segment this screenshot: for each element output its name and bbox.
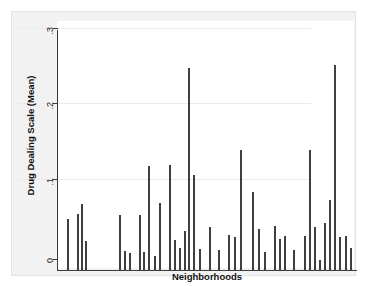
bar bbox=[169, 165, 171, 271]
bar bbox=[179, 248, 181, 271]
bar bbox=[304, 236, 306, 271]
bar bbox=[193, 175, 195, 271]
bar bbox=[240, 150, 242, 271]
bar bbox=[174, 240, 176, 271]
bar bbox=[234, 237, 236, 271]
y-axis-label: Drug Dealing Scale (Mean) bbox=[25, 51, 36, 221]
bar bbox=[319, 260, 321, 271]
bar bbox=[314, 227, 316, 271]
bar bbox=[350, 248, 352, 271]
bar bbox=[279, 239, 281, 271]
bar bbox=[124, 251, 126, 271]
bar bbox=[334, 65, 336, 271]
bar bbox=[329, 200, 331, 271]
bar bbox=[284, 236, 286, 271]
page-top-artifact-text: · · · · · bbox=[0, 0, 367, 10]
bar bbox=[339, 237, 341, 271]
bar bbox=[309, 150, 311, 271]
bars-layer bbox=[58, 32, 357, 271]
bar bbox=[274, 226, 276, 271]
bar bbox=[228, 235, 230, 271]
y-tick-label-0.1: .1 bbox=[45, 178, 55, 186]
bar bbox=[209, 227, 211, 271]
bar bbox=[85, 241, 87, 271]
bar bbox=[252, 192, 254, 271]
bar bbox=[154, 256, 156, 271]
bar bbox=[199, 249, 201, 271]
y-tick-label-0.2: .2 bbox=[45, 102, 55, 110]
bar bbox=[258, 229, 260, 271]
bar bbox=[143, 252, 145, 271]
bar bbox=[129, 253, 131, 271]
y-tick-label-0.3: .3 bbox=[45, 27, 55, 35]
bar bbox=[264, 252, 266, 271]
y-tick-label-0: 0 bbox=[45, 258, 55, 263]
bar bbox=[345, 236, 347, 271]
bar bbox=[159, 203, 161, 271]
bar bbox=[81, 204, 83, 271]
bar bbox=[324, 223, 326, 271]
bar bbox=[67, 219, 69, 271]
bar bbox=[148, 166, 150, 271]
bar bbox=[184, 231, 186, 271]
x-axis-label: Neighborhoods bbox=[57, 271, 357, 282]
bar bbox=[77, 214, 79, 271]
figure-frame: .3 .2 .1 0 Drug Dealing Scale (Mean) Nei… bbox=[11, 11, 356, 276]
bar bbox=[188, 68, 190, 271]
bar bbox=[218, 250, 220, 271]
chart-screenshot: · · · · · .3 .2 .1 0 Drug bbox=[0, 0, 367, 286]
bar bbox=[293, 250, 295, 271]
bar bbox=[119, 215, 121, 271]
bar bbox=[139, 215, 141, 271]
